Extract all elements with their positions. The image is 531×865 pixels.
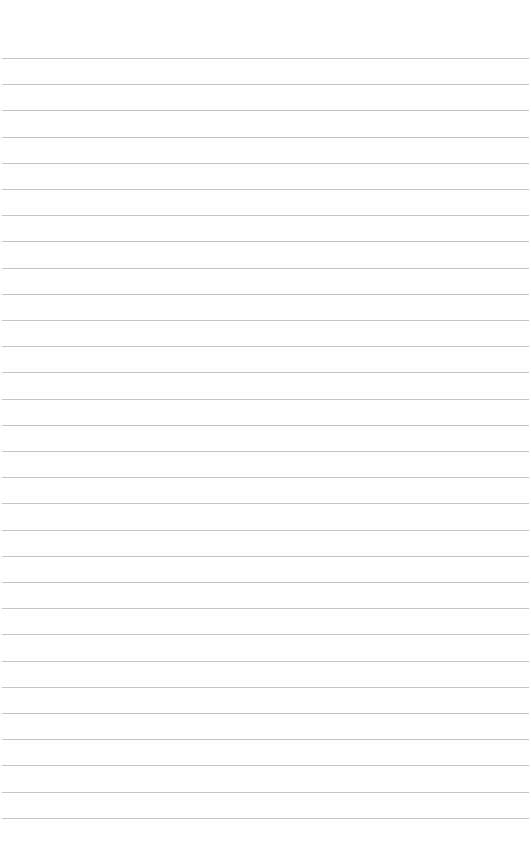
ruled-line — [2, 634, 529, 635]
ruled-line — [2, 792, 529, 793]
ruled-line — [2, 739, 529, 740]
ruled-line — [2, 163, 529, 164]
ruled-line — [2, 713, 529, 714]
ruled-line — [2, 215, 529, 216]
ruled-line — [2, 582, 529, 583]
ruled-line — [2, 765, 529, 766]
ruled-line — [2, 320, 529, 321]
ruled-line — [2, 294, 529, 295]
ruled-line — [2, 372, 529, 373]
ruled-line — [2, 346, 529, 347]
ruled-line — [2, 58, 529, 59]
ruled-line — [2, 687, 529, 688]
ruled-line — [2, 556, 529, 557]
lined-paper-page — [0, 0, 531, 865]
ruled-line — [2, 425, 529, 426]
ruled-line — [2, 110, 529, 111]
ruled-line — [2, 608, 529, 609]
ruled-line — [2, 451, 529, 452]
ruled-line — [2, 530, 529, 531]
ruled-line — [2, 137, 529, 138]
ruled-line — [2, 661, 529, 662]
ruled-line — [2, 241, 529, 242]
ruled-line — [2, 189, 529, 190]
ruled-line — [2, 84, 529, 85]
ruled-line — [2, 477, 529, 478]
ruled-line — [2, 818, 529, 819]
ruled-line — [2, 268, 529, 269]
ruled-line — [2, 503, 529, 504]
ruled-line — [2, 399, 529, 400]
